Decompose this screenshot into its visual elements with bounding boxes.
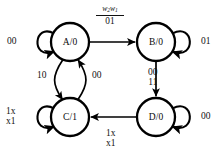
edge-label-d-self: 00 (201, 112, 211, 122)
edge-label-a-to-b-fraction: w2w1 01 (96, 5, 124, 26)
state-label-b: B/0 (149, 37, 163, 47)
edge-a-to-c (55, 60, 63, 99)
state-label-d: D/0 (149, 112, 164, 122)
edge-label-b-self: 01 (201, 37, 211, 47)
edge-label-c-self-line2: x1 (6, 117, 16, 127)
edge-label-a-self: 00 (7, 37, 17, 47)
edge-label-a-to-c: 10 (37, 71, 47, 81)
edge-label-c-to-a: 00 (92, 71, 102, 81)
edge-label-d-to-c: 1x x1 (106, 129, 116, 148)
edge-label-b-to-d: 00 11 (148, 68, 158, 87)
state-diagram-canvas: A/0 B/0 C/1 D/0 00 w2w1 01 01 10 00 00 1… (0, 0, 222, 154)
input-variables-numerator: w2w1 (96, 5, 124, 14)
edge-label-d-to-c-line2: x1 (106, 139, 116, 149)
edge-label-c-self: 1x x1 (6, 107, 16, 126)
edge-c-to-a (78, 60, 86, 99)
state-label-c: C/1 (63, 112, 77, 122)
edge-label-b-to-d-line2: 11 (148, 78, 158, 88)
edge-label-a-to-b-value: 01 (96, 16, 124, 26)
state-label-a: A/0 (63, 37, 78, 47)
